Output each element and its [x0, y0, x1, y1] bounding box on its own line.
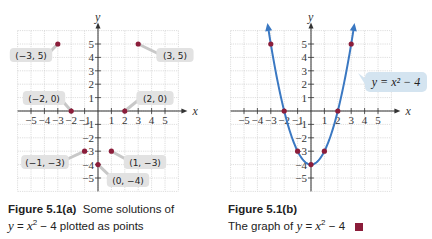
- x-tick-label: −5: [25, 114, 37, 126]
- y-tick-label: 4: [302, 51, 308, 63]
- y-axis-label: y: [94, 10, 101, 24]
- caption-a-text: Some solutions of: [83, 203, 174, 215]
- y-tick-label: −1: [295, 118, 307, 130]
- y-tick-label: 4: [89, 51, 95, 63]
- y-tick-label: 2: [302, 78, 308, 90]
- y-tick-label: 2: [89, 78, 95, 90]
- data-point: [69, 108, 74, 113]
- data-point: [95, 162, 100, 167]
- data-point: [55, 41, 60, 46]
- x-tick-label: 3: [348, 114, 354, 126]
- caption-b-figure-number: Figure 5.1(b): [228, 203, 297, 215]
- x-tick-label: −2: [65, 114, 77, 126]
- x-tick-label: 2: [122, 114, 128, 126]
- y-tick-label: 5: [89, 38, 95, 50]
- data-point: [335, 108, 340, 113]
- x-tick-label: 1: [322, 114, 328, 126]
- x-axis-label: x: [404, 104, 411, 118]
- point-label: (−3, 5): [15, 51, 47, 61]
- y-tick-label: 3: [89, 65, 95, 77]
- x-axis-arrow-icon: [394, 109, 400, 114]
- data-point: [322, 149, 327, 154]
- y-tick-label: 1: [89, 92, 95, 104]
- point-label: (2, 0): [143, 94, 167, 104]
- x-tick-label: −3: [52, 114, 64, 126]
- data-point: [282, 108, 287, 113]
- y-tick-label: 5: [302, 38, 308, 50]
- data-point: [295, 149, 300, 154]
- x-tick-label: 5: [162, 114, 168, 126]
- x-tick-label: −4: [252, 114, 264, 126]
- data-point: [308, 162, 313, 167]
- x-tick-label: 4: [149, 114, 155, 126]
- x-tick-label: 1: [109, 114, 115, 126]
- y-tick-label: −4: [295, 159, 307, 171]
- caption-a-eq-sign: =: [14, 220, 27, 232]
- data-point: [349, 41, 354, 46]
- curve-arrow-icon: [265, 23, 272, 31]
- y-tick-label: −4: [82, 159, 94, 171]
- x-tick-label: −5: [238, 114, 250, 126]
- y-tick-label: 1: [302, 92, 308, 104]
- caption-b-eq-sign: =: [302, 220, 315, 232]
- caption-a-eq-rest: − 4: [37, 220, 57, 232]
- chart-a: xy−5−4−3−2−112345−5−4−3−2−112345(−3, 5)(…: [10, 10, 199, 192]
- x-axis-arrow-icon: [181, 109, 187, 114]
- y-tick-label: −2: [295, 132, 307, 144]
- data-point: [122, 108, 127, 113]
- x-axis-label: x: [191, 104, 198, 118]
- data-point: [82, 149, 87, 154]
- x-tick-label: 5: [375, 114, 381, 126]
- caption-b-eq-rest: − 4: [326, 220, 346, 232]
- point-label: (−1, −3): [25, 158, 64, 168]
- caption-a-figure-number: Figure 5.1(a): [8, 203, 76, 215]
- x-tick-label: −3: [265, 114, 277, 126]
- curve-arrow-icon: [350, 23, 357, 31]
- y-tick-label: −2: [82, 132, 94, 144]
- y-tick-label: 3: [302, 65, 308, 77]
- x-tick-label: 4: [362, 114, 368, 126]
- data-point: [268, 41, 273, 46]
- equation-label: y = x² − 4: [371, 75, 420, 89]
- caption-a-text2: plotted as points: [57, 220, 144, 232]
- caption-b-text: The graph of: [228, 220, 296, 232]
- x-tick-label: −4: [39, 114, 51, 126]
- point-label: (−2, 0): [28, 94, 60, 104]
- point-label: (1, −3): [129, 158, 161, 168]
- caption-b: Figure 5.1(b) The graph of y = x2 − 4: [228, 203, 363, 233]
- data-point: [109, 149, 114, 154]
- y-tick-label: −5: [295, 172, 307, 184]
- y-tick-label: −1: [82, 118, 94, 130]
- end-of-example-square-icon: [355, 223, 363, 231]
- y-tick-label: −5: [82, 172, 94, 184]
- point-label: (0, −4): [112, 176, 144, 186]
- data-point: [136, 41, 141, 46]
- y-axis-label: y: [307, 10, 314, 24]
- point-label: (3, 5): [163, 51, 187, 61]
- chart-b: xy−5−4−3−2−112345−5−4−3−2−112345y = x² −…: [231, 10, 427, 192]
- x-tick-label: 3: [135, 114, 141, 126]
- caption-a: Figure 5.1(a) Some solutions of y = x2 −…: [8, 203, 174, 233]
